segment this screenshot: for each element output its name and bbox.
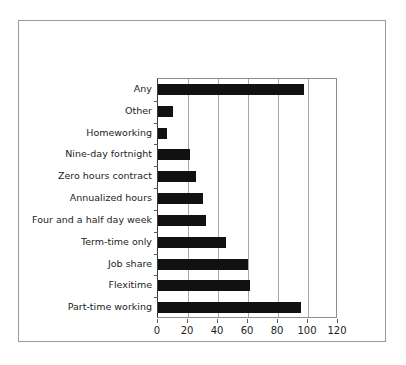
y-axis-tick-label: Other xyxy=(125,100,152,122)
y-axis-tick xyxy=(154,254,158,255)
x-axis-tick-label: 40 xyxy=(211,325,224,336)
gridline-80 xyxy=(278,79,279,317)
y-axis-tick-label: Zero hours contract xyxy=(58,165,152,187)
y-axis-tick xyxy=(154,101,158,102)
x-axis-tick-label: 60 xyxy=(241,325,254,336)
gridline-100 xyxy=(308,79,309,317)
x-axis-tick-label: 0 xyxy=(154,325,160,336)
bar-nine-day-fortnight xyxy=(158,149,190,160)
chart-figure: Any Other Homeworking Nine-day fortnight… xyxy=(0,0,406,365)
y-axis-tick-label: Four and a half day week xyxy=(32,209,152,231)
y-axis-tick-label: Term-time only xyxy=(81,231,152,253)
bar-homeworking xyxy=(158,128,167,139)
y-axis-tick-label: Flexitime xyxy=(108,274,152,296)
y-axis-tick-label: Any xyxy=(134,78,152,100)
y-axis-tick-label: Part-time working xyxy=(68,296,152,318)
x-axis-tick-label: 100 xyxy=(297,325,316,336)
y-axis-tick-label: Homeworking xyxy=(86,122,152,144)
y-axis-tick xyxy=(154,144,158,145)
x-axis-tick xyxy=(337,319,338,323)
y-axis-tick xyxy=(154,210,158,211)
bar-part-time-working xyxy=(158,302,301,313)
bar-job-share xyxy=(158,259,248,270)
y-axis-tick xyxy=(154,275,158,276)
y-axis-labels: Any Other Homeworking Nine-day fortnight… xyxy=(0,78,152,318)
bar-other xyxy=(158,106,173,117)
y-axis-tick xyxy=(154,188,158,189)
bar-annualized-hours xyxy=(158,193,203,204)
bar-any xyxy=(158,84,304,95)
y-axis-tick-label: Nine-day fortnight xyxy=(65,143,152,165)
x-axis-tick xyxy=(247,319,248,323)
bar-four-and-a-half-day-week xyxy=(158,215,206,226)
x-axis-tick-label: 120 xyxy=(327,325,346,336)
y-axis-tick xyxy=(154,297,158,298)
x-axis-tick-label: 80 xyxy=(271,325,284,336)
x-axis-tick-label: 20 xyxy=(181,325,194,336)
y-axis-tick-label: Job share xyxy=(108,253,152,275)
x-axis-tick xyxy=(157,319,158,323)
x-axis-tick xyxy=(277,319,278,323)
x-axis-tick xyxy=(187,319,188,323)
y-axis-tick-label: Annualized hours xyxy=(70,187,152,209)
x-axis-tick xyxy=(217,319,218,323)
y-axis-tick xyxy=(154,123,158,124)
y-axis-tick xyxy=(154,166,158,167)
bar-term-time-only xyxy=(158,237,226,248)
x-axis-tick xyxy=(307,319,308,323)
plot-area xyxy=(157,78,337,318)
x-axis: 0 20 40 60 80 100 120 xyxy=(157,319,339,341)
bar-flexitime xyxy=(158,280,250,291)
y-axis-tick xyxy=(154,232,158,233)
bar-zero-hours-contract xyxy=(158,171,196,182)
